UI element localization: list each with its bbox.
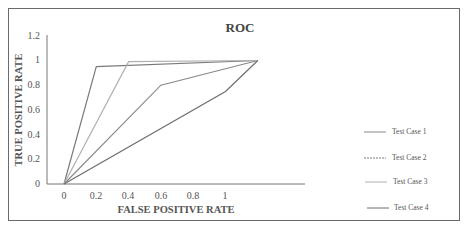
roc-chart: ROC 0 0.2 0.4 0.6 0.8 1 1.2 0 0.2 0.4 0.…	[0, 0, 470, 233]
x-axis-label: FALSE POSITIVE RATE	[118, 204, 235, 215]
y-tick: 0.4	[28, 129, 41, 140]
x-tick: 0.4	[122, 190, 135, 201]
legend-label: Test Case 4	[394, 203, 429, 212]
y-tick: 0.6	[28, 104, 41, 115]
y-tick: 0	[35, 178, 40, 189]
x-tick: 0.8	[187, 190, 200, 201]
chart-title: ROC	[226, 20, 255, 35]
y-tick: 1.2	[28, 30, 41, 41]
series-test-case-2	[64, 61, 258, 185]
x-tick-labels: 0 0.2 0.4 0.6 0.8 1	[62, 190, 228, 201]
y-axis-label: TRUE POSITIVE RATE	[13, 54, 24, 167]
legend-label: Test Case 2	[392, 153, 427, 162]
legend: Test Case 1 Test Case 2 Test Case 3 Test…	[364, 127, 429, 212]
y-tick: 0.2	[28, 153, 41, 164]
x-tick: 1	[223, 190, 228, 201]
y-tick: 0.8	[28, 79, 41, 90]
x-tick: 0	[62, 190, 67, 201]
x-tick: 0.2	[90, 190, 103, 201]
y-tick: 1	[35, 54, 40, 65]
y-tick-labels: 0 0.2 0.4 0.6 0.8 1 1.2	[28, 30, 41, 189]
x-tick: 0.6	[155, 190, 168, 201]
legend-label: Test Case 1	[392, 127, 427, 136]
legend-label: Test Case 3	[393, 177, 428, 186]
